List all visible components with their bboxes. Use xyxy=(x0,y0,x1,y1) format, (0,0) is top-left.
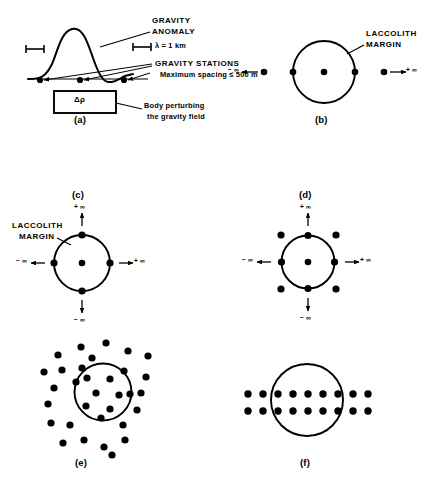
panel-e-station-dot xyxy=(66,421,73,428)
panel-e-station-dot xyxy=(115,391,122,398)
panel-c-margin-label-line2: MARGIN xyxy=(19,233,54,242)
panel-f-station-dot xyxy=(259,407,266,414)
panel-e-station-dot xyxy=(72,378,79,385)
panel-f-graphics xyxy=(244,364,371,436)
panel-a-gravity-anomaly-label-line1: GRAVITY xyxy=(152,17,190,26)
panel-e-station-dot xyxy=(92,389,99,396)
panel-d-station-dot-diagonal xyxy=(277,285,284,292)
panel-c-right-infinity-label: + ∞ xyxy=(134,257,145,264)
panel-a-body-label-line1: Body perturbing xyxy=(144,102,204,110)
panel-f-station-dot xyxy=(274,390,281,397)
panel-e-station-dot xyxy=(119,421,126,428)
panel-e-station-dot xyxy=(108,451,115,458)
panel-f-station-dot xyxy=(304,390,311,397)
panel-e-station-dot xyxy=(54,351,61,358)
panel-f-station-dot xyxy=(289,407,296,414)
panel-e-station-dot xyxy=(106,405,113,412)
panel-e-station-dot xyxy=(144,352,151,359)
panel-e-station-dot xyxy=(124,347,131,354)
panel-f-station-dot xyxy=(349,390,356,397)
panel-e-station-dot xyxy=(88,354,95,361)
panel-e-station-dot xyxy=(77,343,84,350)
panel-a-max-spacing-label: Maximum spacing ≤ 500 m xyxy=(160,71,258,79)
panel-f-station-dot xyxy=(319,407,326,414)
panel-f-station-dot xyxy=(304,407,311,414)
panel-e-station-dot xyxy=(102,339,109,346)
panel-e-station-dot xyxy=(142,373,149,380)
panel-c-left-infinity-label: − ∞ xyxy=(16,257,27,264)
panel-b-station-dot xyxy=(321,69,328,76)
panel-d-letter: (d) xyxy=(299,190,312,201)
panel-e-station-dot xyxy=(133,406,140,413)
panel-b-station-dot xyxy=(261,69,268,76)
panel-e-station-dot xyxy=(40,368,47,375)
panel-a-gravity-anomaly-label-line2: ANOMALY xyxy=(152,28,195,37)
panel-c-letter: (c) xyxy=(72,190,84,201)
panel-e-station-dot xyxy=(44,400,51,407)
panel-b-letter: (b) xyxy=(315,115,328,126)
panel-d-station-dot-diagonal xyxy=(332,231,339,238)
panel-d-station-dot-diagonal xyxy=(332,285,339,292)
panel-f-station-dot xyxy=(349,407,356,414)
panel-e-station-dot xyxy=(97,414,104,421)
panel-d-station-dot xyxy=(305,259,312,266)
panel-e-station-dot xyxy=(120,367,127,374)
panel-d-bottom-infinity-label: − ∞ xyxy=(300,314,311,321)
panel-b-station-dot xyxy=(352,69,359,76)
panel-c-station-dot xyxy=(78,287,85,294)
panel-f-station-dot xyxy=(364,390,371,397)
panel-a-body-leader xyxy=(116,103,142,109)
panel-a-body-label-line2: the gravity field xyxy=(147,113,205,121)
panel-a-graphics xyxy=(26,29,152,113)
panel-a-wavelength-label: λ = 1 km xyxy=(155,42,186,50)
panel-c-station-dot xyxy=(79,260,86,267)
panel-e-station-dot xyxy=(59,439,66,446)
panel-d-station-dot-diagonal xyxy=(277,231,284,238)
panel-d-right-infinity-label: + ∞ xyxy=(360,256,371,263)
panel-d-station-dot xyxy=(278,258,285,265)
panel-e-station-dot xyxy=(121,436,128,443)
panel-a-station-dot xyxy=(121,77,127,83)
panel-e-station-dot xyxy=(82,402,89,409)
panel-a-scale-bar-left xyxy=(26,45,44,53)
panel-f-station-dot xyxy=(319,390,326,397)
panel-e-station-dot xyxy=(126,390,133,397)
panel-b-margin-leader xyxy=(347,45,364,54)
panel-c-top-infinity-label: + ∞ xyxy=(74,203,85,210)
panel-c-station-dot xyxy=(78,231,85,238)
panel-b-station-dot xyxy=(290,69,297,76)
panel-c-bottom-infinity-label: − ∞ xyxy=(74,316,85,323)
panel-e-station-dot xyxy=(83,374,90,381)
panel-c-station-dot xyxy=(50,259,57,266)
panel-d-left-infinity-label: − ∞ xyxy=(242,256,253,263)
panel-e-station-dot xyxy=(106,375,113,382)
figure-canvas: GRAVITY ANOMALY λ = 1 km GRAVITY STATION… xyxy=(0,0,433,480)
panel-a-station-dot xyxy=(77,77,83,83)
panel-d-graphics xyxy=(257,213,359,311)
panel-e-station-dot xyxy=(100,443,107,450)
panel-b-margin-label-line1: LACCOLITH xyxy=(366,30,417,39)
panel-f-laccolith-circle xyxy=(271,364,343,436)
panel-f-station-dot xyxy=(274,407,281,414)
panel-f-letter: (f) xyxy=(300,458,310,469)
panel-a-scale-bar-lambda xyxy=(133,43,151,51)
panel-f-station-dot xyxy=(244,390,251,397)
panel-e-graphics xyxy=(40,339,151,458)
panel-d-station-dot xyxy=(331,258,338,265)
panel-a-anomaly-leader xyxy=(100,32,150,47)
panel-e-station-dot xyxy=(58,366,65,373)
panel-a-station-dot xyxy=(37,77,43,83)
panel-f-station-dot xyxy=(259,390,266,397)
panel-c-station-dot xyxy=(106,259,113,266)
panel-e-station-dot xyxy=(78,364,85,371)
panel-f-station-dot xyxy=(289,390,296,397)
panel-b-pos-infinity-label: + ∞ xyxy=(406,66,417,73)
panel-e-letter: (e) xyxy=(75,458,87,469)
panel-a-density-contrast-label: Δρ xyxy=(74,96,85,105)
panel-b-station-dot xyxy=(381,69,388,76)
panel-b-neg-infinity-label: − ∞ xyxy=(228,66,239,73)
panel-a-gravity-stations-label: GRAVITY STATIONS xyxy=(155,60,239,69)
panel-d-station-dot xyxy=(304,232,311,239)
panel-f-station-dot xyxy=(334,407,341,414)
panel-e-station-dot xyxy=(80,436,87,443)
